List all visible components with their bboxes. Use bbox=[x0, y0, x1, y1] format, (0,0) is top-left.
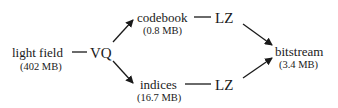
node-indices: indices (16.7 MB) bbox=[137, 77, 182, 104]
node-bitstream: bitstream (3.4 MB) bbox=[275, 44, 323, 71]
edge-lz-bottom-bitstream-arrow bbox=[243, 58, 272, 78]
edge-lz-top-bitstream-arrow bbox=[243, 24, 272, 45]
node-codebook: codebook (0.8 MB) bbox=[137, 10, 188, 37]
indices-label: indices bbox=[140, 77, 177, 92]
node-light-field: light field (402 MB) bbox=[12, 45, 63, 73]
edge-vq-indices-arrow bbox=[113, 61, 133, 83]
codebook-size: (0.8 MB) bbox=[143, 25, 183, 37]
node-lz-bottom: LZ bbox=[215, 77, 233, 93]
node-lz-top: LZ bbox=[215, 10, 233, 26]
indices-size: (16.7 MB) bbox=[137, 92, 182, 104]
node-vq: VQ bbox=[90, 45, 112, 61]
bitstream-size: (3.4 MB) bbox=[279, 59, 319, 71]
light-field-size: (402 MB) bbox=[20, 61, 62, 73]
bitstream-label: bitstream bbox=[275, 44, 323, 59]
edge-vq-codebook-arrow bbox=[113, 20, 133, 42]
codebook-label: codebook bbox=[137, 10, 188, 25]
compression-pipeline-diagram: light field (402 MB) VQ codebook (0.8 MB… bbox=[0, 0, 338, 108]
light-field-label: light field bbox=[12, 45, 63, 60]
